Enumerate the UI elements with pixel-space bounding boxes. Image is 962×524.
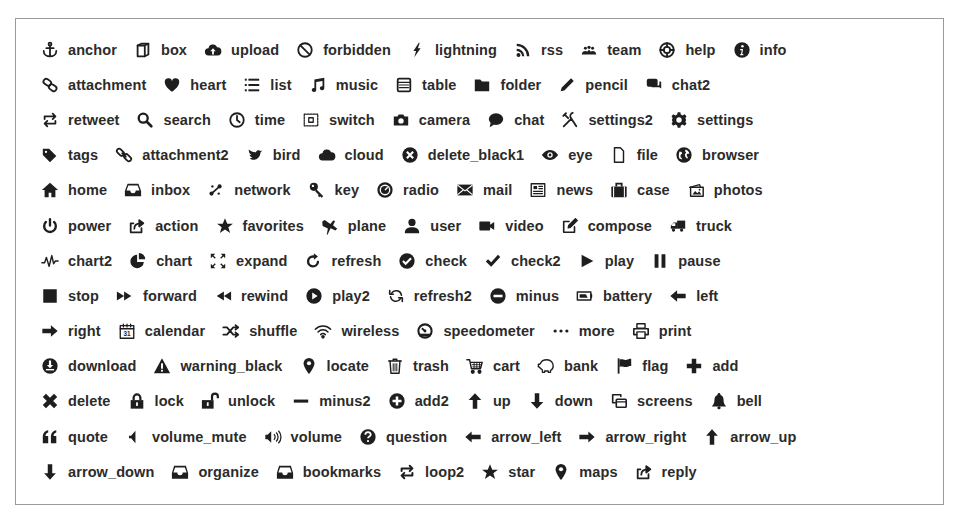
icon-item-key[interactable]: key <box>307 180 360 200</box>
icon-item-photos[interactable]: photos <box>686 180 763 200</box>
icon-item-check[interactable]: check <box>397 251 467 271</box>
icon-item-right[interactable]: right <box>40 321 101 341</box>
icon-item-add[interactable]: add <box>684 356 738 376</box>
icon-item-attachment[interactable]: attachment <box>40 75 146 95</box>
icon-item-cart[interactable]: cart <box>465 356 520 376</box>
icon-item-rewind[interactable]: rewind <box>213 286 288 306</box>
icon-item-inbox[interactable]: inbox <box>123 180 190 200</box>
icon-item-chart[interactable]: chart <box>128 251 192 271</box>
icon-item-speedometer[interactable]: speedometer <box>415 321 534 341</box>
icon-item-camera[interactable]: camera <box>391 110 470 130</box>
icon-item-trash[interactable]: trash <box>385 356 449 376</box>
icon-item-chat[interactable]: chat <box>486 110 544 130</box>
icon-item-bookmarks[interactable]: bookmarks <box>275 462 381 482</box>
icon-item-screens[interactable]: screens <box>609 391 693 411</box>
icon-item-table[interactable]: table <box>394 75 456 95</box>
icon-item-unlock[interactable]: unlock <box>200 391 275 411</box>
icon-item-box[interactable]: box <box>133 40 187 60</box>
icon-item-retweet[interactable]: retweet <box>40 110 119 130</box>
icon-item-rss[interactable]: rss <box>513 40 563 60</box>
icon-item-tags[interactable]: tags <box>40 145 98 165</box>
icon-item-folder[interactable]: folder <box>472 75 541 95</box>
icon-item-compose[interactable]: compose <box>560 216 652 236</box>
icon-item-more[interactable]: more <box>551 321 615 341</box>
icon-item-lock[interactable]: lock <box>127 391 184 411</box>
icon-item-chart2[interactable]: chart2 <box>40 251 112 271</box>
icon-item-user[interactable]: user <box>402 216 461 236</box>
icon-item-help[interactable]: help <box>657 40 715 60</box>
icon-item-search[interactable]: search <box>135 110 210 130</box>
icon-item-minus2[interactable]: minus2 <box>291 391 370 411</box>
icon-item-arrow-down[interactable]: arrow_down <box>40 462 154 482</box>
icon-item-delete[interactable]: delete <box>40 391 111 411</box>
icon-item-home[interactable]: home <box>40 180 107 200</box>
icon-item-delete-black1[interactable]: delete_black1 <box>400 145 524 165</box>
icon-item-volume-mute[interactable]: volume_mute <box>124 427 247 447</box>
icon-item-stop[interactable]: stop <box>40 286 99 306</box>
icon-item-list[interactable]: list <box>242 75 291 95</box>
icon-item-loop2[interactable]: loop2 <box>397 462 464 482</box>
icon-item-wireless[interactable]: wireless <box>313 321 399 341</box>
icon-item-question[interactable]: question <box>358 427 447 447</box>
icon-item-arrow-right[interactable]: arrow_right <box>577 427 686 447</box>
icon-item-bird[interactable]: bird <box>245 145 301 165</box>
icon-item-lightning[interactable]: lightning <box>407 40 497 60</box>
icon-item-battery[interactable]: battery <box>575 286 652 306</box>
icon-item-network[interactable]: network <box>206 180 290 200</box>
icon-item-plane[interactable]: plane <box>320 216 386 236</box>
icon-item-quote[interactable]: quote <box>40 427 108 447</box>
icon-item-heart[interactable]: heart <box>162 75 226 95</box>
icon-item-bank[interactable]: bank <box>536 356 598 376</box>
icon-item-favorites[interactable]: favorites <box>215 216 304 236</box>
icon-item-switch[interactable]: switch <box>301 110 375 130</box>
icon-item-locate[interactable]: locate <box>299 356 370 376</box>
icon-item-action[interactable]: action <box>127 216 198 236</box>
icon-item-radio[interactable]: radio <box>375 180 439 200</box>
icon-item-music[interactable]: music <box>308 75 378 95</box>
icon-item-chat2[interactable]: chat2 <box>644 75 710 95</box>
icon-item-team[interactable]: team <box>579 40 641 60</box>
icon-item-arrow-up[interactable]: arrow_up <box>702 427 796 447</box>
icon-item-news[interactable]: news <box>528 180 593 200</box>
icon-item-shuffle[interactable]: shuffle <box>221 321 297 341</box>
icon-item-add2[interactable]: add2 <box>387 391 449 411</box>
icon-item-upload[interactable]: upload <box>203 40 279 60</box>
icon-item-calendar[interactable]: 31calendar <box>117 321 205 341</box>
icon-item-mail[interactable]: mail <box>455 180 512 200</box>
icon-item-minus[interactable]: minus <box>488 286 559 306</box>
icon-item-play2[interactable]: play2 <box>304 286 370 306</box>
icon-item-pencil[interactable]: pencil <box>557 75 628 95</box>
icon-item-bell[interactable]: bell <box>709 391 762 411</box>
icon-item-star[interactable]: star <box>480 462 535 482</box>
icon-item-down[interactable]: down <box>527 391 593 411</box>
icon-item-arrow-left[interactable]: arrow_left <box>463 427 561 447</box>
icon-item-video[interactable]: video <box>477 216 543 236</box>
icon-item-truck[interactable]: truck <box>668 216 732 236</box>
icon-item-settings[interactable]: settings <box>669 110 753 130</box>
icon-item-play[interactable]: play <box>577 251 634 271</box>
icon-item-warning-black[interactable]: warning_black <box>152 356 282 376</box>
icon-item-check2[interactable]: check2 <box>483 251 561 271</box>
icon-item-refresh[interactable]: refresh <box>303 251 381 271</box>
icon-item-refresh2[interactable]: refresh2 <box>386 286 472 306</box>
icon-item-maps[interactable]: maps <box>551 462 617 482</box>
icon-item-file[interactable]: file <box>609 145 658 165</box>
icon-item-left[interactable]: left <box>668 286 718 306</box>
icon-item-attachment2[interactable]: attachment2 <box>114 145 229 165</box>
icon-item-print[interactable]: print <box>631 321 692 341</box>
icon-item-organize[interactable]: organize <box>170 462 258 482</box>
icon-item-browser[interactable]: browser <box>674 145 759 165</box>
icon-item-download[interactable]: download <box>40 356 136 376</box>
icon-item-pause[interactable]: pause <box>650 251 720 271</box>
icon-item-cloud[interactable]: cloud <box>317 145 384 165</box>
icon-item-forbidden[interactable]: forbidden <box>295 40 391 60</box>
icon-item-case[interactable]: case <box>609 180 670 200</box>
icon-item-volume[interactable]: volume <box>263 427 342 447</box>
icon-item-expand[interactable]: expand <box>208 251 287 271</box>
icon-item-reply[interactable]: reply <box>634 462 697 482</box>
icon-item-flag[interactable]: flag <box>614 356 668 376</box>
icon-item-settings2[interactable]: settings2 <box>560 110 653 130</box>
icon-item-eye[interactable]: eye <box>540 145 593 165</box>
icon-item-time[interactable]: time <box>227 110 285 130</box>
icon-item-up[interactable]: up <box>465 391 511 411</box>
